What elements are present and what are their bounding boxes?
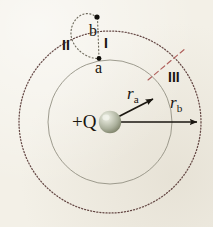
charge-label: +Q xyxy=(72,112,96,131)
vector-rb-label: rb xyxy=(170,94,182,111)
ra-symbol: r xyxy=(127,84,134,103)
rb-symbol: r xyxy=(170,93,177,112)
ra-subscript: a xyxy=(134,93,139,105)
point-b-marker xyxy=(94,14,99,19)
charge-sphere xyxy=(99,111,121,133)
point-a-label: a xyxy=(95,60,102,76)
physics-field-diagram: +Q b a I II III ra rb xyxy=(0,0,213,227)
path-I-line xyxy=(98,18,100,58)
rb-subscript: b xyxy=(177,102,183,114)
vector-ra-label: ra xyxy=(127,85,139,102)
path-III-label: III xyxy=(168,70,180,84)
charge-sphere-highlight xyxy=(102,115,109,121)
path-II-label: II xyxy=(62,38,70,52)
path-I-label: I xyxy=(104,36,108,50)
point-b-label: b xyxy=(89,23,97,39)
